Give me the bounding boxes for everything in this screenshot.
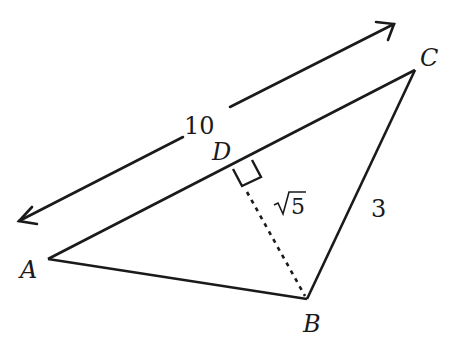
- segment-bc: [307, 70, 415, 299]
- label-bd-length: 5: [274, 192, 306, 219]
- label-point-b: B: [302, 310, 321, 338]
- triangle-diagram: 10 D C A B 3 5: [0, 0, 450, 339]
- label-ac-length: 10: [184, 112, 215, 140]
- segment-ac: [48, 70, 415, 259]
- label-point-d: D: [211, 138, 231, 166]
- label-point-c: C: [420, 44, 438, 72]
- label-bd-radicand: 5: [291, 194, 305, 219]
- diagram-svg: 10 D C A B 3 5: [0, 0, 450, 339]
- label-bc-length: 3: [371, 195, 386, 223]
- right-angle-marker-icon: [233, 160, 261, 186]
- segment-ab: [48, 259, 307, 299]
- dimension-line-left: [19, 137, 183, 221]
- label-point-a: A: [18, 256, 37, 284]
